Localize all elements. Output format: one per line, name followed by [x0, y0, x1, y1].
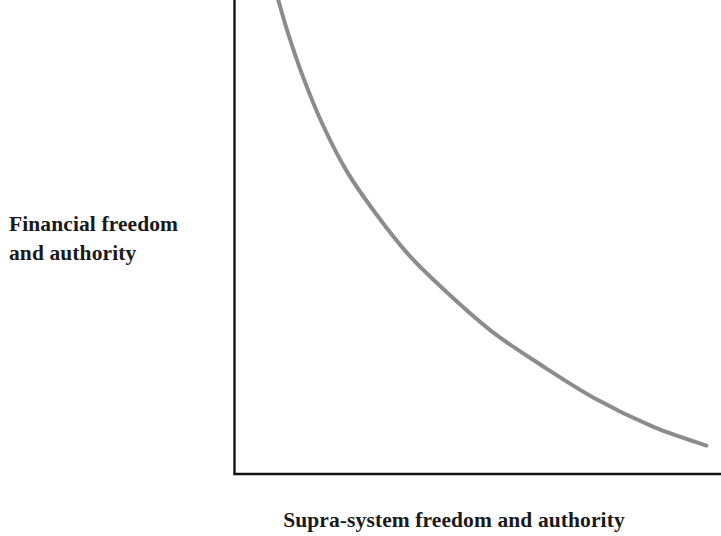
- chart-figure: Financial freedom and authority Supra-sy…: [0, 0, 721, 536]
- trade-off-curve: [278, 0, 706, 446]
- plot-area: [0, 0, 721, 536]
- x-axis-label: Supra-system freedom and authority: [234, 506, 674, 534]
- y-axis-label: Financial freedom and authority: [9, 210, 224, 268]
